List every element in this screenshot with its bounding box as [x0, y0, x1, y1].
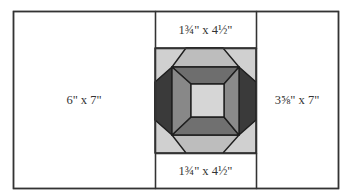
label-bottom-middle-panel: 1¾" x 4½" [155, 164, 256, 178]
label-left-panel: 6" x 7" [13, 93, 155, 107]
pineapple-quilt-block [155, 48, 256, 153]
label-top-middle-panel: 1¾" x 4½" [155, 23, 256, 37]
label-right-panel: 3⅝" x 7" [256, 93, 338, 107]
center-square [191, 84, 224, 117]
quilt-layout-diagram: 6" x 7" 1¾" x 4½" 1¾" x 4½" 3⅝" x 7" [0, 0, 345, 196]
